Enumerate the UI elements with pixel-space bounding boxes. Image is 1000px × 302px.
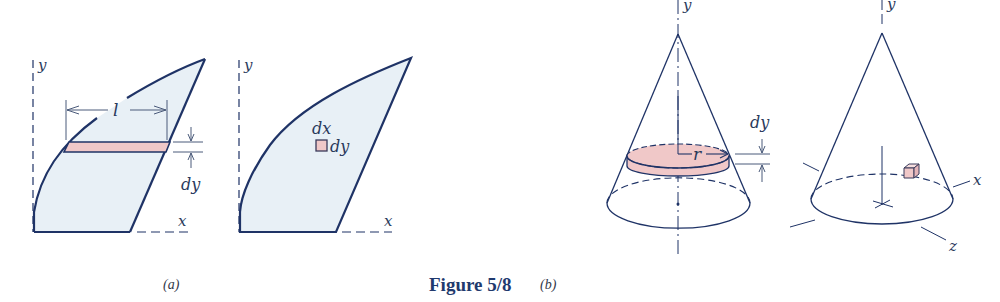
dx-label: dx [312,119,331,138]
panel-a-element: dx dy y x [239,56,411,232]
axis-stub-upper-left [803,163,819,171]
x-axis-label: x [384,212,393,230]
z-axis-label: z [948,237,957,255]
base-center-point [677,203,680,206]
figure-canvas: l dy y x dx dy y x [0,0,1000,302]
strip-length-label: l [113,100,118,120]
y-axis-label: y [37,56,47,74]
panel-a-strip: l dy y x [33,56,205,232]
dy-label: dy [181,175,201,194]
radius-label: r [693,144,702,164]
z-axis-stub [921,227,946,240]
figure-caption: Figure 5/8 [429,274,512,295]
x-axis-stub [953,181,970,187]
axis-stub-lower-left [790,220,815,227]
x-axis-label: x [973,171,982,189]
differential-area-element [316,140,327,151]
part-b-label: (b) [540,277,557,293]
panel-b-disk-cone: r dy y [607,0,770,258]
x-axis-label: x [178,212,187,230]
dy-label: dy [330,137,350,156]
dy-label: dy [750,113,770,132]
horizontal-strip-element [64,142,170,152]
y-axis-label: y [886,0,896,13]
panel-b-element-cone: y x z [790,0,982,255]
y-axis-label: y [243,56,253,74]
volume-element-cube [904,164,919,178]
y-axis-label: y [682,0,692,14]
part-a-label: (a) [163,277,180,293]
